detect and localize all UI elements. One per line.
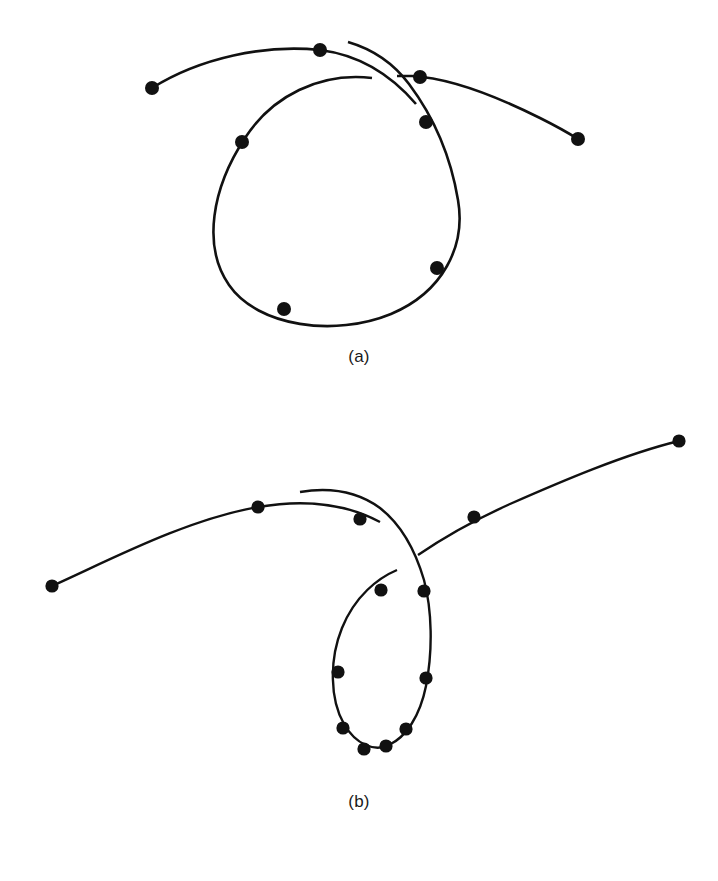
dot-a-1 (145, 81, 159, 95)
panel-b-caption: (b) (0, 792, 718, 812)
dot-b-12 (357, 742, 370, 755)
dot-a-7 (430, 261, 444, 275)
dot-b-5 (672, 434, 685, 447)
dot-b-7 (417, 584, 430, 597)
panel-a-caption: (a) (0, 347, 718, 367)
curve-right-arc (418, 441, 679, 555)
dot-b-13 (379, 739, 392, 752)
curve-teardrop-loop (213, 42, 459, 326)
dot-a-5 (235, 135, 249, 149)
dot-b-8 (331, 665, 344, 678)
figure-root: (a) (b) (0, 0, 718, 881)
dot-b-3 (353, 512, 366, 525)
panel-a: (a) (0, 0, 718, 400)
dot-b-10 (336, 721, 349, 734)
dot-a-4 (571, 132, 585, 146)
panel-b: (b) (0, 400, 718, 881)
dot-a-3 (413, 70, 427, 84)
dot-b-6 (374, 583, 387, 596)
dot-a-8 (277, 302, 291, 316)
dot-a-6 (419, 115, 433, 129)
curve-elongated-loop (300, 490, 431, 747)
dot-b-9 (419, 671, 432, 684)
dot-b-4 (467, 510, 480, 523)
panel-a-drawing (0, 0, 718, 400)
dot-b-11 (399, 722, 412, 735)
dot-b-1 (45, 579, 58, 592)
curve-upper-left-arc (152, 49, 416, 104)
curve-left-arc (52, 503, 380, 586)
dot-b-2 (251, 500, 264, 513)
dot-a-2 (313, 43, 327, 57)
